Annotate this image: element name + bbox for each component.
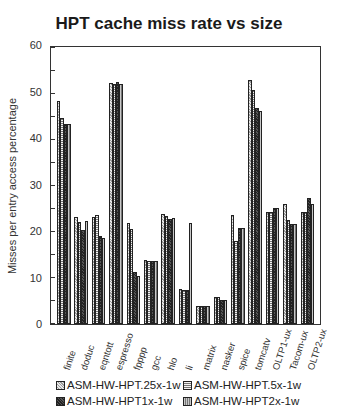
x-tick-label: matrix (200, 343, 218, 371)
bar-spice-s3 (241, 228, 244, 324)
y-tick-label: 30 (14, 179, 42, 191)
y-tick-mark (51, 162, 55, 163)
bar-fpppp-s3 (137, 276, 140, 324)
bar-gcc-s3 (154, 261, 157, 324)
legend-label: ASM-HW-HPT2x-1w (194, 395, 299, 407)
bar-li-s3 (189, 223, 192, 324)
bar-finite-s3 (67, 124, 70, 324)
y-tick-mark (51, 254, 55, 255)
bar-tomcatv-s3 (259, 111, 262, 324)
bar-doduc-s3 (85, 221, 88, 324)
x-tick-label: hlo (165, 356, 179, 371)
y-tick-mark (51, 277, 55, 278)
bar-eqntott-s3 (102, 238, 105, 324)
x-tick-label: fpppp (131, 345, 149, 371)
bar-hlo-s3 (172, 218, 175, 324)
y-tick-label: 50 (14, 86, 42, 98)
y-tick-label: 60 (14, 39, 42, 51)
legend-swatch-icon (183, 397, 192, 406)
legend-item-hpt-25x: ASM-HW-HPT.25x-1w (56, 379, 181, 391)
y-tick-label: 0 (14, 318, 42, 330)
y-tick-mark (51, 323, 55, 324)
y-tick-label: 40 (14, 132, 42, 144)
y-tick-mark (51, 231, 55, 232)
y-tick-mark (51, 93, 55, 94)
x-tick-label: finite (61, 349, 78, 371)
y-tick-mark (51, 185, 55, 186)
legend-label: ASM-HW-HPT.5x-1w (194, 379, 301, 391)
legend-label: ASM-HW-HPT1x-1w (67, 395, 172, 407)
x-tick-label: gcc (148, 354, 163, 371)
legend-item-hpt-5x: ASM-HW-HPT.5x-1w (183, 379, 301, 391)
y-tick-label: 10 (14, 272, 42, 284)
y-tick-mark (51, 300, 55, 301)
legend-swatch-icon (56, 381, 65, 390)
legend-item-hpt-2x: ASM-HW-HPT2x-1w (183, 395, 299, 407)
x-tick-label: nasker (218, 341, 237, 372)
bar-nasker-s3 (224, 300, 227, 324)
chart-title: HPT cache miss rate vs size (0, 14, 338, 34)
bar-matrix-s3 (206, 306, 209, 324)
bar-oltp1-ux-s3 (276, 208, 279, 324)
y-tick-mark (51, 47, 55, 48)
x-tick-label: spice (235, 347, 252, 372)
x-tick-label: li (183, 364, 195, 371)
y-tick-mark (51, 208, 55, 209)
plot-area (50, 46, 321, 325)
legend-swatch-icon (56, 397, 65, 406)
y-tick-mark (51, 70, 55, 71)
bar-tacom-ux-s3 (293, 224, 296, 324)
bar-oltp2-ux-s3 (311, 204, 314, 324)
legend-item-hpt-1x: ASM-HW-HPT1x-1w (56, 395, 172, 407)
y-tick-mark (51, 139, 55, 140)
y-tick-label: 20 (14, 225, 42, 237)
legend-swatch-icon (183, 381, 192, 390)
legend-label: ASM-HW-HPT.25x-1w (67, 379, 181, 391)
y-tick-mark (51, 116, 55, 117)
bar-espresso-s3 (119, 84, 122, 324)
x-tick-label: doduc (78, 343, 96, 371)
